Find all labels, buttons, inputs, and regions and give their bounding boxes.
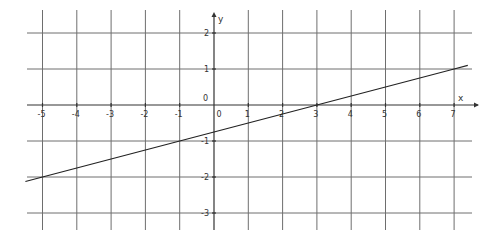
y-axis-arrow-icon	[212, 12, 217, 17]
plot-series	[25, 65, 467, 181]
x-tick-label: 6	[416, 110, 421, 119]
x-tick-label: 3	[313, 110, 318, 119]
x-tick-label: -2	[140, 110, 148, 119]
coordinate-plane: -5-4-3-2-101234567 -3-2-1012 x y	[0, 0, 493, 242]
x-tick-label: -3	[106, 110, 114, 119]
axes	[27, 12, 479, 230]
x-tick-label: 1	[245, 110, 250, 119]
y-tick-label: -1	[201, 137, 209, 146]
x-tick-label: -5	[38, 110, 46, 119]
x-tick-label: -1	[175, 110, 183, 119]
line-series	[25, 65, 467, 181]
y-tick-label: 1	[204, 65, 209, 74]
x-tick-label: 7	[451, 110, 456, 119]
vertical-gridlines	[43, 10, 455, 230]
y-tick-label: 0	[203, 94, 208, 103]
x-tick-label: 0	[216, 110, 221, 119]
y-tick-label: -3	[201, 209, 209, 218]
x-tick-label: -4	[72, 110, 80, 119]
x-tick-label: 5	[382, 110, 387, 119]
x-tick-label: 4	[348, 110, 353, 119]
y-axis-label: y	[218, 14, 224, 24]
x-axis-arrow-icon	[474, 103, 479, 108]
x-axis-label: x	[458, 93, 464, 103]
y-tick-label: -2	[201, 173, 209, 182]
y-tick-label: 2	[204, 29, 209, 38]
